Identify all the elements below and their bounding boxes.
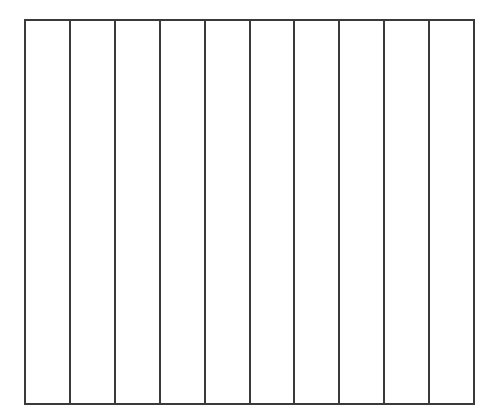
grid-column-1	[26, 21, 71, 403]
diagram-canvas	[0, 0, 493, 420]
grid-column-2	[71, 21, 116, 403]
grid-column-5	[206, 21, 251, 403]
grid-column-10	[430, 21, 473, 403]
grid-column-4	[161, 21, 206, 403]
grid-column-7	[295, 21, 340, 403]
grid-column-8	[340, 21, 385, 403]
grid-column-6	[251, 21, 296, 403]
column-grid	[24, 19, 475, 405]
grid-column-3	[116, 21, 161, 403]
grid-column-9	[385, 21, 430, 403]
